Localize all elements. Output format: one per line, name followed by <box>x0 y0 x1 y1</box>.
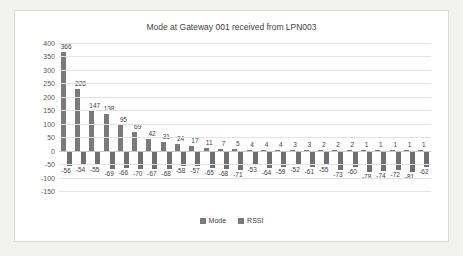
y-axis-tick-label: 100 <box>43 120 55 127</box>
legend-swatch-mode <box>200 218 206 224</box>
bar-group: 2-60 <box>345 43 359 191</box>
bar-rssi <box>152 151 157 169</box>
bar-mode <box>104 114 109 151</box>
bar-group: 42-67 <box>145 43 159 191</box>
y-axis-tick-label: 0 <box>51 147 55 154</box>
gridline: 250 <box>59 83 431 84</box>
legend-swatch-rssi <box>238 218 244 224</box>
bar-group: 1-62 <box>417 43 431 191</box>
gridline: 50 <box>59 137 431 138</box>
y-axis-tick-label: 250 <box>43 80 55 87</box>
gridline: -50 <box>59 164 431 165</box>
chart-legend: Mode RSSI <box>15 217 448 224</box>
legend-item-mode: Mode <box>200 217 227 224</box>
y-axis-tick-label: 300 <box>43 66 55 73</box>
y-axis-tick-label: -100 <box>41 174 55 181</box>
gridline: 300 <box>59 70 431 71</box>
bar-mode <box>75 89 80 150</box>
y-axis-tick-label: 350 <box>43 53 55 60</box>
gridline: 100 <box>59 124 431 125</box>
bar-series-layer: 366-56228-54147-55138-6995-6669-7042-673… <box>59 43 431 191</box>
bar-mode <box>161 142 166 150</box>
plot-area: 366-56228-54147-55138-6995-6669-7042-673… <box>59 43 431 191</box>
gridline: 350 <box>59 56 431 57</box>
bar-group: 147-55 <box>88 43 102 191</box>
gridline: 150 <box>59 110 431 111</box>
y-axis-tick-label: 50 <box>47 134 55 141</box>
bar-group: 95-66 <box>116 43 130 191</box>
bar-rssi <box>167 151 172 169</box>
bar-rssi <box>81 151 86 166</box>
bar-group: 7-68 <box>216 43 230 191</box>
bar-rssi <box>124 151 129 169</box>
y-axis-tick-label: -150 <box>41 188 55 195</box>
chart-title: Mode at Gateway 001 received from LPN003 <box>15 22 448 32</box>
gridline: 200 <box>59 97 431 98</box>
bar-mode <box>61 52 66 150</box>
gridline: 0 <box>59 151 431 152</box>
bar-rssi <box>367 151 372 172</box>
bar-value-rssi: -62 <box>412 168 436 175</box>
y-axis-tick-label: 150 <box>43 107 55 114</box>
bar-mode <box>89 111 94 151</box>
chart-container: Mode at Gateway 001 received from LPN003… <box>14 10 449 242</box>
y-axis-tick-label: -50 <box>45 161 55 168</box>
gridline: -150 <box>59 191 431 192</box>
bar-rssi <box>210 151 215 168</box>
y-axis-tick-label: 400 <box>43 40 55 47</box>
bar-rssi <box>296 151 301 165</box>
legend-item-rssi: RSSI <box>238 217 263 224</box>
bar-rssi <box>396 151 401 170</box>
bar-rssi <box>224 151 229 169</box>
bar-rssi <box>381 151 386 171</box>
bar-rssi <box>110 151 115 170</box>
screenshot-root: Mode at Gateway 001 received from LPN003… <box>0 0 463 256</box>
bar-group: 1-72 <box>388 43 402 191</box>
bar-rssi <box>267 151 272 168</box>
gridline: 400 <box>59 43 431 44</box>
bar-mode <box>132 132 137 151</box>
legend-label-rssi: RSSI <box>247 217 263 224</box>
y-axis-tick-label: 200 <box>43 93 55 100</box>
bar-group: 2-55 <box>317 43 331 191</box>
legend-label-mode: Mode <box>209 217 227 224</box>
bar-group: 1-78 <box>359 43 373 191</box>
bar-group: 11-65 <box>202 43 216 191</box>
bar-rssi <box>138 151 143 170</box>
gridline: -100 <box>59 178 431 179</box>
bar-group: 1-74 <box>374 43 388 191</box>
bar-rssi <box>253 151 258 165</box>
bar-value-mode: 1 <box>412 141 436 148</box>
bar-mode <box>146 139 151 150</box>
